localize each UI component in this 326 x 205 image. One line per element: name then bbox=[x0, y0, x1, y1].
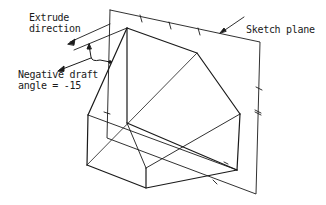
sketch-plane-leader bbox=[220, 17, 244, 33]
draft-angle-indicator bbox=[58, 44, 111, 71]
sketch-plane-label: Sketch plane bbox=[246, 25, 315, 35]
draft-angle-label-line1: Negative draft bbox=[18, 70, 98, 80]
drafted-solid bbox=[87, 28, 240, 188]
extrude-direction-label-line2: direction bbox=[29, 24, 81, 34]
extrude-direction-label-line1: Extrude bbox=[29, 13, 69, 23]
draft-angle-label-line2: angle = -15 bbox=[18, 81, 81, 91]
sketch-plane bbox=[104, 10, 262, 194]
